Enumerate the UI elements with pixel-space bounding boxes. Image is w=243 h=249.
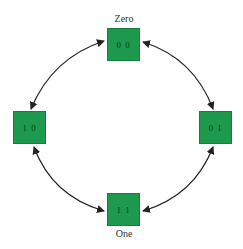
arrow-00-01 — [143, 42, 213, 109]
state-node-01: 0 1 — [199, 111, 232, 144]
state-label-one: One — [104, 228, 144, 239]
arrow-00-10 — [31, 41, 104, 109]
arrow-10-11 — [34, 147, 104, 211]
state-node-11: 1 1 — [107, 193, 140, 226]
state-node-10: 1 0 — [13, 111, 46, 144]
state-label-zero: Zero — [104, 13, 144, 24]
arrow-01-11 — [143, 147, 213, 211]
state-cycle-diagram: Zero 0 0 1 0 0 1 1 1 One — [0, 0, 243, 249]
state-node-00: 0 0 — [107, 28, 140, 61]
